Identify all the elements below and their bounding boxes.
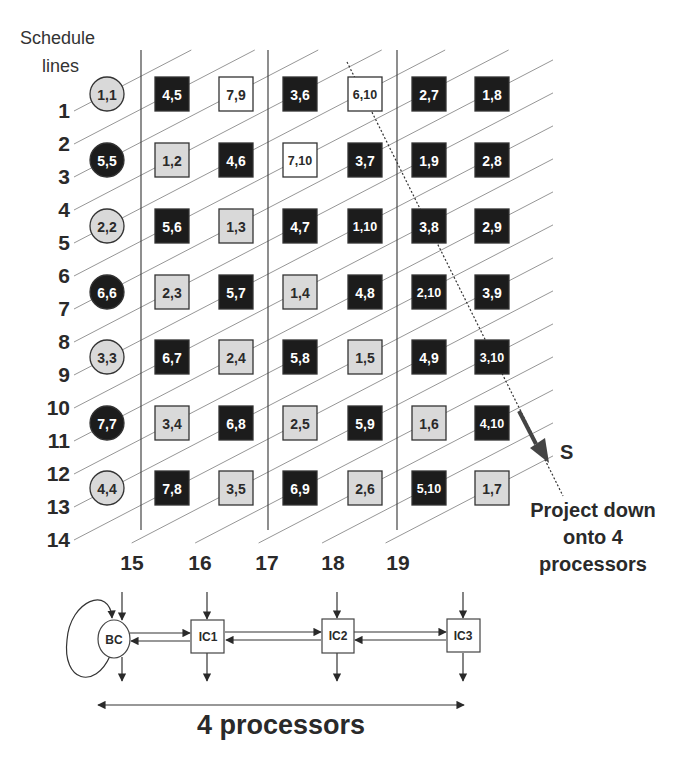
task-node: 6,8 [219,406,253,440]
schedule-line-label: 11 [48,429,71,452]
task-node-label: 1,10 [353,220,377,234]
processor-count-label: 4 processors [197,710,365,740]
task-node-label: 2,2 [97,219,117,235]
task-node-label: 4,8 [355,285,375,301]
task-node-label: 6,8 [226,416,246,432]
task-node-label: 5,8 [290,350,310,366]
task-node: 2,4 [219,340,253,374]
task-node: 5,8 [283,340,317,374]
task-grid: 1,14,57,93,66,102,71,85,51,24,67,103,71,… [90,77,509,505]
diagonal-task-node: 4,4 [90,471,124,505]
task-node-label: 4,7 [290,219,310,235]
task-node: 1,4 [283,275,317,309]
task-node: 1,3 [219,209,253,243]
task-node-label: 3,7 [355,153,375,169]
task-node-label: 7,8 [162,481,182,497]
schedule-line-label: 10 [47,396,70,419]
task-node-label: 3,10 [480,351,504,365]
task-node-label: 1,2 [162,153,182,169]
diagonal-task-node: 3,3 [90,340,124,374]
task-node-label: 2,6 [355,481,375,497]
projection-caption: processors [539,553,647,575]
processor-array: BC IC1 IC2 IC3 [66,592,480,705]
task-node-label: 1,9 [419,153,439,169]
task-node-label: 2,3 [162,285,182,301]
schedule-line-label: 19 [386,551,409,574]
schedule-line-label: 17 [255,551,278,574]
task-node-label: 5,7 [226,285,246,301]
task-node-label: 2,8 [482,153,502,169]
task-node: 4,10 [475,406,509,440]
task-node-label: 1,7 [482,481,502,497]
task-node-label: 7,7 [97,416,117,432]
diagonal-task-node: 1,1 [90,77,124,111]
schedule-line-label: 13 [47,495,70,518]
task-node-label: 1,6 [419,416,439,432]
task-node: 6,9 [283,471,317,505]
diagonal-task-node: 5,5 [90,143,124,177]
task-node-label: 2,9 [482,219,502,235]
task-node-label: 3,6 [290,87,310,103]
schedule-line-label: 6 [58,264,70,287]
task-node: 1,5 [348,340,382,374]
task-node: 3,4 [155,406,189,440]
task-node: 6,10 [348,77,382,111]
task-node: 4,8 [348,275,382,309]
task-node-label: 2,10 [417,286,441,300]
task-node-label: 2,5 [290,416,310,432]
schedule-line-label: 3 [58,165,70,188]
projection-caption: onto 4 [563,526,624,548]
task-node: 1,10 [348,209,382,243]
task-node-label: 4,10 [480,417,504,431]
task-node-label: 1,5 [355,350,375,366]
task-node: 3,6 [283,77,317,111]
schedule-line [74,50,382,210]
task-node: 6,7 [155,340,189,374]
diagonal-task-node: 7,7 [90,406,124,440]
task-node-label: 4,9 [419,350,439,366]
task-node-label: 5,10 [417,482,441,496]
schedule-line [386,456,553,543]
task-node: 5,6 [155,209,189,243]
task-node: 3,8 [412,209,446,243]
schedule-line-label: 16 [188,551,211,574]
task-node: 5,9 [348,406,382,440]
schedule-line-label: 9 [58,363,70,386]
task-node: 2,7 [412,77,446,111]
schedule-line-label: 4 [58,198,70,221]
task-node-label: 7,10 [288,154,312,168]
schedule-line [195,357,553,543]
task-node: 7,10 [283,143,317,177]
diagonal-task-node: 2,2 [90,209,124,243]
task-node-label: 2,4 [226,350,246,366]
task-node-label: 6,7 [162,350,182,366]
schedule-line-label: 1 [58,99,70,122]
task-node-label: 1,4 [290,285,310,301]
task-node-label: 3,9 [482,285,502,301]
schedule-line-label: 7 [58,297,70,320]
diagonal-task-node: 6,6 [90,275,124,309]
task-node: 4,5 [155,77,189,111]
task-node: 1,2 [155,143,189,177]
task-node-label: 1,3 [226,219,246,235]
schedule-line-label: 12 [47,462,70,485]
ic1-node-label: IC1 [199,630,218,644]
task-node: 5,10 [412,471,446,505]
s-vector-label: S [560,441,573,463]
task-node-label: 7,9 [226,87,246,103]
task-node: 4,7 [283,209,317,243]
schedule-line-label: 2 [58,132,70,155]
task-node-label: 3,8 [419,219,439,235]
task-node: 3,9 [475,275,509,309]
task-node-label: 6,10 [353,88,377,102]
task-node: 7,8 [155,471,189,505]
task-node-label: 1,1 [97,87,117,103]
task-node-label: 1,8 [482,87,502,103]
task-node: 3,7 [348,143,382,177]
schedule-line-label: 5 [58,231,70,254]
task-node-label: 5,5 [97,153,117,169]
task-node: 2,8 [475,143,509,177]
task-node: 2,9 [475,209,509,243]
task-node: 2,5 [283,406,317,440]
task-node-label: 5,9 [355,416,375,432]
